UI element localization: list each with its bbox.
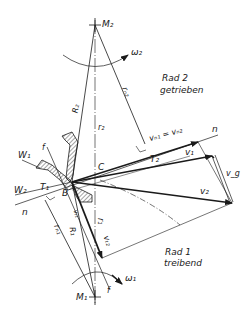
label-f-top: f	[42, 143, 46, 152]
label-rn2: rₙ₂	[120, 86, 132, 99]
label-n-right: n	[212, 124, 218, 134]
gear-mesh-velocity-diagram: M₂ M₁ ω₂ ω₁ Rad 2 getrieben Rad 1 treibe…	[0, 0, 245, 317]
radius-rn1	[45, 200, 95, 297]
label-w1: W₁	[18, 150, 31, 160]
label-m2: M₂	[102, 19, 114, 29]
wheel1-label: Rad 1	[165, 247, 191, 257]
label-R2: R₂	[71, 103, 82, 114]
label-t1: T₁	[40, 182, 49, 192]
label-w2: W₂	[14, 185, 27, 195]
radius-R2	[72, 25, 95, 182]
label-f-bottom: f	[107, 286, 111, 295]
label-m1: M₁	[76, 292, 88, 302]
label-n-left: n	[22, 207, 28, 217]
right-angle-marker-left	[46, 196, 55, 200]
label-vt1: vₜ₁	[73, 209, 82, 219]
label-omega1: ω₁	[125, 273, 137, 283]
wheel2-label: Rad 2	[162, 73, 188, 83]
construction-mid	[72, 156, 190, 190]
label-v1: v₁	[185, 147, 194, 157]
label-r1: r₁	[96, 218, 105, 225]
label-vn: vₙ₁ = vₙ₂	[148, 125, 184, 143]
label-c: C	[98, 162, 105, 172]
omega2-arc	[63, 55, 128, 67]
wheel1-role: treibend	[164, 258, 202, 268]
omega1-arrow	[112, 275, 122, 284]
label-R1: R₁	[68, 226, 78, 236]
label-omega2: ω₂	[131, 47, 143, 57]
center-m1-cross	[89, 290, 101, 305]
wheel2-role: getrieben	[160, 85, 204, 95]
label-v2: v₂	[200, 186, 209, 196]
vector-vg-b	[215, 155, 233, 202]
label-vt2: vₜ₂	[102, 234, 114, 248]
right-angle-marker-top	[136, 146, 146, 152]
vector-vg-a	[212, 156, 230, 203]
label-b: B	[62, 188, 68, 198]
label-vg: v_g	[226, 169, 240, 178]
label-r2: r₂	[98, 123, 105, 132]
